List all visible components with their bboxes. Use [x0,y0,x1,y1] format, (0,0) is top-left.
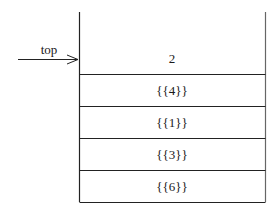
stack-cell: {{1}} [156,115,187,130]
stack-cell: {{4}} [156,83,187,98]
stack-top-value: 2 [169,51,176,66]
top-pointer-label: top [41,42,58,57]
stack-cell: {{6}} [156,179,187,194]
stack-cell: {{3}} [156,147,187,162]
stack-diagram: top 2 {{4}} {{1}} {{3}} {{6}} [0,0,280,213]
